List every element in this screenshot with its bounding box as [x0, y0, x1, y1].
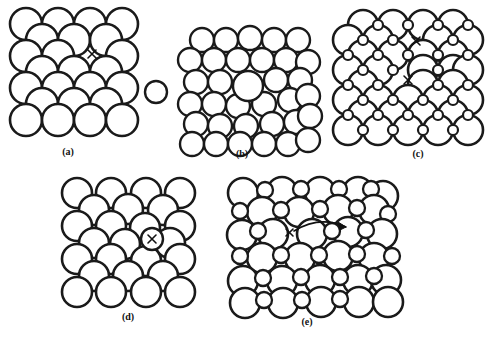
- panel-label-e: (e): [301, 316, 312, 328]
- crystal-defect-diagram: (a): [0, 0, 487, 339]
- cation-atom: [388, 125, 398, 135]
- cation-atom: [358, 35, 368, 45]
- lattice-atom: [252, 132, 276, 156]
- panel-label-c: (c): [412, 148, 423, 160]
- cation-atom: [273, 247, 289, 263]
- cation-atom: [349, 246, 365, 262]
- cation-atom: [433, 110, 443, 120]
- panel-c: (c): [333, 10, 483, 160]
- cation-atom: [384, 248, 400, 264]
- cation-atom: [332, 269, 348, 285]
- lattice-atom: [106, 104, 138, 136]
- cation-atom: [373, 80, 383, 90]
- cation-atom: [250, 223, 266, 239]
- cation-atom: [358, 95, 368, 105]
- cation-atom: [256, 292, 272, 308]
- cation-atom: [343, 110, 353, 120]
- cation-atom: [403, 50, 413, 60]
- lattice-atom: [298, 104, 322, 128]
- lattice-atom: [42, 104, 74, 136]
- cation-atom: [332, 291, 348, 307]
- cation-atom: [324, 223, 340, 239]
- vacancy-x-mark: [88, 50, 96, 58]
- cation-atom: [358, 65, 368, 75]
- panel-c-lattice: [333, 10, 483, 145]
- lattice-atom: [208, 70, 232, 94]
- panel-a-lattice: [10, 8, 138, 136]
- cation-atom: [433, 65, 443, 75]
- panel-d: (d): [62, 178, 195, 323]
- cation-atom: [463, 80, 473, 90]
- panel-label-b: (b): [236, 148, 248, 160]
- lattice-atom: [165, 277, 195, 307]
- cation-atom: [311, 247, 327, 263]
- cation-atom: [343, 80, 353, 90]
- cation-atom: [448, 95, 458, 105]
- panel-label-d: (d): [122, 311, 134, 323]
- cation-atom: [388, 35, 398, 45]
- cation-atom: [373, 20, 383, 30]
- cation-atom: [257, 182, 273, 198]
- lattice-atom: [178, 48, 202, 72]
- panel-e-lattice: [227, 177, 403, 318]
- cation-atom: [433, 50, 443, 60]
- cation-atom: [463, 110, 473, 120]
- cation-atom: [255, 270, 271, 286]
- cation-atom: [433, 80, 443, 90]
- lattice-atom: [202, 92, 226, 116]
- lattice-atom: [226, 48, 250, 72]
- cation-atom: [294, 292, 310, 308]
- cation-atom: [418, 125, 428, 135]
- substitutional-atom: [233, 71, 263, 101]
- cation-atom: [312, 201, 328, 217]
- cation-atom: [388, 65, 398, 75]
- lattice-atom: [10, 104, 42, 136]
- cation-atom: [448, 35, 458, 45]
- cation-atom: [293, 269, 309, 285]
- cation-atom: [433, 20, 443, 30]
- panel-e: (e): [227, 177, 403, 328]
- lattice-atom: [62, 277, 92, 307]
- cation-atom: [349, 200, 365, 216]
- lattice-atom: [202, 48, 226, 72]
- lattice-atom: [96, 277, 126, 307]
- cation-atom: [388, 95, 398, 105]
- panel-a: (a): [10, 8, 167, 158]
- lattice-atom: [238, 26, 262, 50]
- panel-b: (b): [178, 26, 322, 160]
- figure-container: (a): [0, 0, 487, 339]
- panel-d-lattice: [62, 178, 195, 307]
- cation-atom: [403, 20, 413, 30]
- cation-atom: [463, 50, 473, 60]
- lattice-atom: [296, 128, 320, 152]
- cation-atom: [403, 110, 413, 120]
- lattice-atom: [204, 132, 228, 156]
- cation-atom: [232, 248, 248, 264]
- cation-atom: [273, 202, 289, 218]
- cation-atom: [463, 20, 473, 30]
- cation-atom: [373, 110, 383, 120]
- lattice-atom: [180, 132, 204, 156]
- cation-atom: [358, 222, 374, 238]
- cation-atom: [366, 268, 382, 284]
- removed-atom: [145, 81, 167, 103]
- panel-label-a: (a): [62, 146, 74, 158]
- cation-atom: [343, 50, 353, 60]
- cation-atom: [293, 181, 309, 197]
- cation-atom: [418, 95, 428, 105]
- cation-atom: [448, 125, 458, 135]
- cation-atom: [232, 203, 248, 219]
- lattice-atom: [184, 70, 208, 94]
- lattice-atom: [131, 277, 161, 307]
- cation-atom: [373, 50, 383, 60]
- lattice-atom: [74, 104, 106, 136]
- cation-atom: [358, 125, 368, 135]
- anion-atom: [373, 287, 403, 317]
